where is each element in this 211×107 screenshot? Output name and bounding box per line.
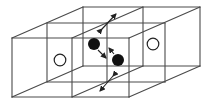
top-flux-arrow: [102, 14, 116, 29]
front-plane: [12, 38, 129, 97]
partitioned-box-diagram: [0, 0, 211, 107]
open-particle-right: [147, 38, 159, 50]
lower-particle-motion-arrow: [109, 48, 114, 54]
upper-particle-motion-arrow: [98, 50, 106, 58]
middle-depth-plane: [47, 23, 165, 82]
filled-particle-lower: [112, 54, 124, 66]
open-particle-left: [54, 54, 66, 66]
back-plane: [83, 7, 200, 66]
filled-particle-upper: [88, 38, 100, 50]
